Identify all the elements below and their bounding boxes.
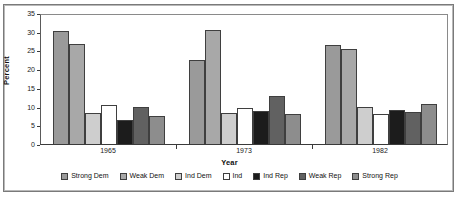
x-axis-title: Year bbox=[0, 158, 459, 167]
legend-swatch-icon bbox=[223, 173, 230, 180]
bar[interactable] bbox=[189, 60, 205, 144]
bar[interactable] bbox=[117, 120, 133, 144]
legend-label: Ind Dem bbox=[185, 172, 211, 180]
legend-item[interactable]: Strong Dem bbox=[61, 172, 108, 180]
bar-group bbox=[325, 15, 437, 144]
legend-label: Strong Rep bbox=[362, 172, 397, 180]
legend-item[interactable]: Weak Rep bbox=[299, 172, 342, 180]
bar[interactable] bbox=[405, 112, 421, 144]
bar-group bbox=[189, 15, 301, 144]
x-tick-label: 1982 bbox=[312, 147, 448, 154]
bar[interactable] bbox=[253, 111, 269, 144]
legend-swatch-icon bbox=[299, 173, 306, 180]
bar[interactable] bbox=[285, 114, 301, 144]
legend-label: Weak Dem bbox=[130, 172, 165, 180]
legend-swatch-icon bbox=[352, 173, 359, 180]
bar[interactable] bbox=[421, 104, 437, 144]
y-tick-label: 20 bbox=[27, 66, 35, 74]
bar[interactable] bbox=[269, 96, 285, 144]
plot-area bbox=[40, 14, 448, 145]
chart-screenshot: Percent 05101520253035 196519731982 Year… bbox=[0, 0, 459, 200]
bar[interactable] bbox=[341, 49, 357, 144]
y-tick-label: 35 bbox=[27, 10, 35, 18]
legend-label: Weak Rep bbox=[309, 172, 342, 180]
chart-container: Percent 05101520253035 196519731982 Year… bbox=[0, 0, 459, 200]
legend-item[interactable]: Ind Dem bbox=[175, 172, 211, 180]
y-axis-title: Percent bbox=[2, 56, 11, 85]
bars-layer bbox=[41, 15, 447, 144]
x-axis-separator bbox=[312, 145, 313, 149]
legend-label: Strong Dem bbox=[71, 172, 108, 180]
chart-legend: Strong DemWeak DemInd DemIndInd RepWeak … bbox=[0, 172, 459, 180]
bar[interactable] bbox=[389, 110, 405, 144]
y-tick-label: 10 bbox=[27, 104, 35, 112]
legend-swatch-icon bbox=[175, 173, 182, 180]
legend-item[interactable]: Ind bbox=[223, 172, 243, 180]
x-tick-label: 1965 bbox=[40, 147, 176, 154]
bar[interactable] bbox=[205, 30, 221, 144]
y-tick-label: 15 bbox=[27, 85, 35, 93]
bar[interactable] bbox=[325, 45, 341, 144]
bar[interactable] bbox=[53, 31, 69, 144]
bar[interactable] bbox=[133, 107, 149, 144]
y-tick-label: 0 bbox=[31, 141, 35, 149]
y-axis: Percent 05101520253035 bbox=[0, 8, 40, 151]
legend-swatch-icon bbox=[120, 173, 127, 180]
bar[interactable] bbox=[237, 108, 253, 144]
legend-item[interactable]: Ind Rep bbox=[253, 172, 288, 180]
y-tick-label: 30 bbox=[27, 29, 35, 37]
y-tick-label: 25 bbox=[27, 47, 35, 55]
bar-group bbox=[53, 15, 165, 144]
y-tick-label: 5 bbox=[31, 122, 35, 130]
y-tick-mark bbox=[37, 145, 40, 146]
bar[interactable] bbox=[373, 114, 389, 144]
bar[interactable] bbox=[357, 107, 373, 144]
x-tick-label: 1973 bbox=[176, 147, 312, 154]
legend-item[interactable]: Strong Rep bbox=[352, 172, 397, 180]
bar[interactable] bbox=[85, 113, 101, 144]
x-axis-separator bbox=[176, 145, 177, 149]
legend-swatch-icon bbox=[253, 173, 260, 180]
bar[interactable] bbox=[221, 113, 237, 144]
bar[interactable] bbox=[149, 116, 165, 144]
legend-label: Ind bbox=[233, 172, 243, 180]
legend-label: Ind Rep bbox=[263, 172, 288, 180]
legend-item[interactable]: Weak Dem bbox=[120, 172, 165, 180]
bar[interactable] bbox=[101, 105, 117, 144]
bar[interactable] bbox=[69, 44, 85, 144]
legend-swatch-icon bbox=[61, 173, 68, 180]
